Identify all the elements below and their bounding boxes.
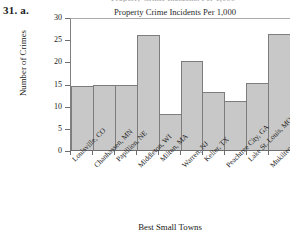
x-tick	[92, 151, 93, 155]
x-tick	[268, 151, 269, 155]
x-tick	[180, 151, 181, 155]
x-axis: Louisville, COChanhassen, MNPapillion, N…	[0, 0, 290, 237]
x-tick	[224, 151, 225, 155]
x-axis-title: Best Small Towns	[80, 222, 260, 232]
x-tick	[136, 151, 137, 155]
